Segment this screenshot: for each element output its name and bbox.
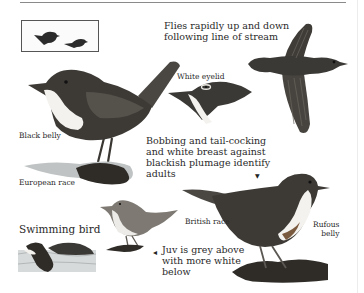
field-guide-plate: Flies rapidly up and down following line… [0,0,364,293]
top-rule-divider [20,2,346,3]
bird-silhouettes-icon [22,21,98,51]
juvenile-caption: Juv is grey above with more white below [162,245,244,278]
rufous-belly-label: Rufous belly [313,221,339,238]
flight-caption-line-2: following line of stream [164,32,289,43]
european-race-label: European race [19,179,75,188]
head-detail-illustration [166,78,256,133]
juvenile-pointer-icon: ◂ [153,248,157,257]
identification-line-4: adults [146,169,270,180]
rufous-belly-line-2: belly [313,230,339,239]
flight-caption: Flies rapidly up and down following line… [164,21,289,43]
swimming-bird-illustration [18,236,96,276]
page-edge [357,0,358,293]
swimming-bird-label: Swimming bird [19,223,100,235]
white-eyelid-label: White eyelid [177,73,225,82]
identification-caption: Bobbing and tail-cocking and white breas… [146,136,270,180]
adult-pointer-icon: ▼ [255,172,260,179]
juvenile-line-3: below [162,267,244,278]
silhouette-thumbnail-box [21,20,99,52]
british-race-label: British race [185,218,230,227]
black-belly-label: Black belly [19,132,61,141]
